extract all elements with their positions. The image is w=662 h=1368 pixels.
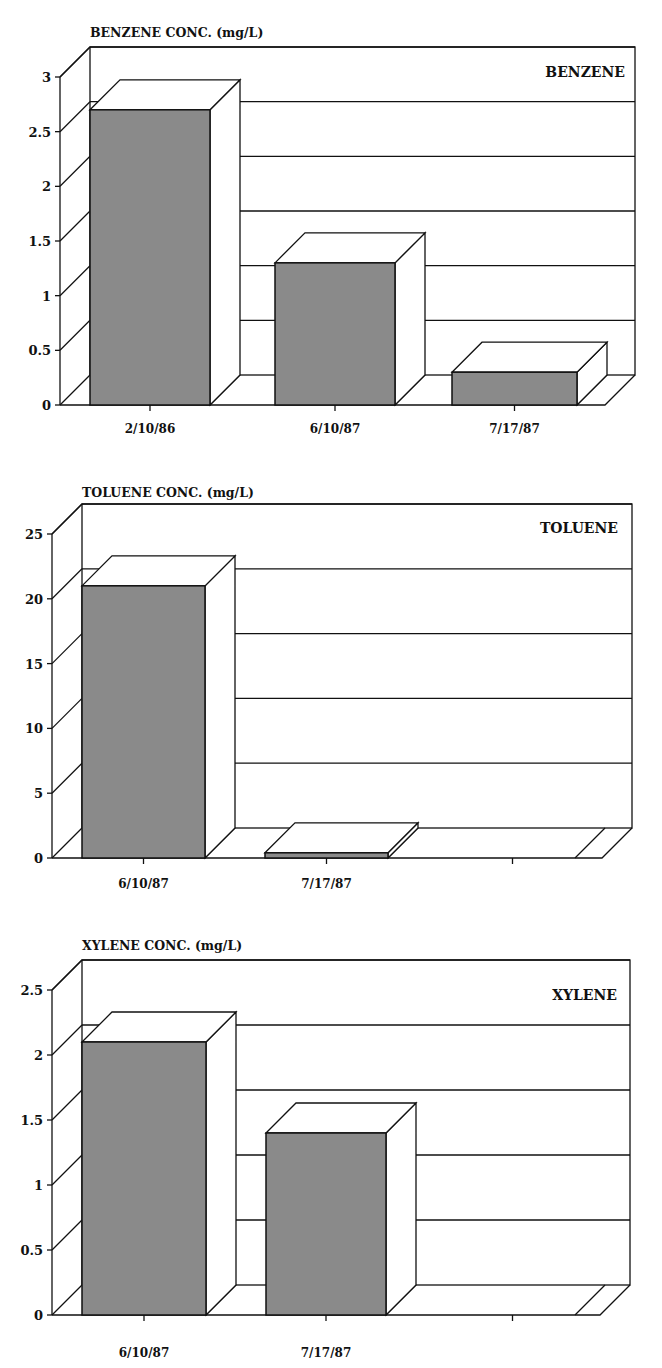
y-tick-label: 1 bbox=[42, 289, 51, 304]
y-tick-label: 2 bbox=[42, 179, 51, 194]
y-tick-label: 10 bbox=[25, 721, 43, 736]
y-tick-label: 0.5 bbox=[28, 343, 51, 358]
bar bbox=[82, 1012, 236, 1315]
y-axis-label: BENZENE CONC. (mg/L) bbox=[90, 25, 263, 40]
y-tick-label: 2.5 bbox=[28, 125, 51, 140]
y-axis-label: TOLUENE CONC. (mg/L) bbox=[82, 485, 254, 500]
bar bbox=[275, 233, 425, 405]
y-axis-label: XYLENE CONC. (mg/L) bbox=[82, 938, 242, 953]
y-tick-label: 20 bbox=[25, 592, 43, 607]
x-category-label: 6/10/87 bbox=[119, 1346, 170, 1360]
y-tick-label: 5 bbox=[34, 786, 43, 801]
chart-title: TOLUENE bbox=[540, 520, 618, 536]
bar bbox=[90, 80, 240, 405]
x-category-label: 6/10/87 bbox=[118, 877, 169, 891]
y-tick-label: 0 bbox=[42, 398, 51, 413]
chart-title: BENZENE bbox=[545, 64, 625, 80]
y-tick-label: 0 bbox=[34, 1308, 43, 1323]
benzene-chart: 00.511.522.532/10/866/10/877/17/87BENZEN… bbox=[0, 0, 662, 440]
x-category-label: 6/10/87 bbox=[310, 422, 361, 436]
x-category-label: 2/10/86 bbox=[125, 422, 176, 436]
y-tick-label: 3 bbox=[42, 70, 51, 85]
x-category-label: 7/17/87 bbox=[489, 422, 540, 436]
y-tick-label: 1 bbox=[34, 1178, 43, 1193]
x-category-label: 7/17/87 bbox=[301, 1346, 352, 1360]
bar bbox=[82, 556, 235, 858]
y-tick-label: 1.5 bbox=[20, 1113, 43, 1128]
y-tick-label: 2 bbox=[34, 1048, 43, 1063]
bar bbox=[265, 823, 418, 858]
y-tick-label: 0.5 bbox=[20, 1243, 43, 1258]
bar bbox=[452, 342, 607, 405]
y-tick-label: 2.5 bbox=[20, 983, 43, 998]
y-tick-label: 1.5 bbox=[28, 234, 51, 249]
x-category-label: 7/17/87 bbox=[301, 877, 352, 891]
benzene-chart-plot: 00.511.522.532/10/866/10/877/17/87BENZEN… bbox=[0, 0, 662, 440]
y-tick-label: 0 bbox=[34, 851, 43, 866]
y-tick-label: 15 bbox=[25, 657, 43, 672]
chart-title: XYLENE bbox=[552, 987, 617, 1003]
bar bbox=[266, 1103, 416, 1315]
y-tick-label: 25 bbox=[25, 527, 43, 542]
